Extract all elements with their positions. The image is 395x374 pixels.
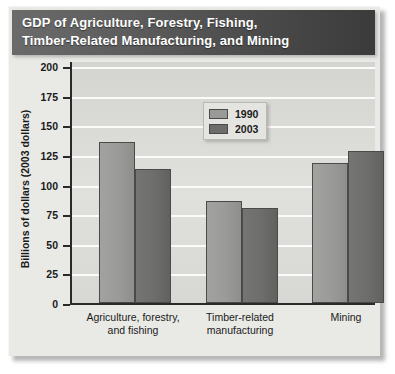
y-axis-tick-label: 150 bbox=[18, 120, 58, 132]
y-axis-tick-label: 175 bbox=[18, 91, 58, 103]
y-axis-tick bbox=[63, 274, 70, 276]
gridline bbox=[72, 67, 375, 69]
y-axis-tick-label: 100 bbox=[18, 180, 58, 192]
x-axis-label-line: manufacturing bbox=[175, 324, 305, 337]
y-axis-tick bbox=[63, 215, 70, 217]
x-axis-label: Mining bbox=[281, 311, 395, 324]
x-axis-label-line: Mining bbox=[281, 311, 395, 324]
y-axis-tick-label: 50 bbox=[18, 239, 58, 251]
title-line-1: GDP of Agriculture, Forestry, Fishing, bbox=[22, 14, 369, 32]
legend-item: 2003 bbox=[209, 122, 258, 135]
gridline bbox=[72, 97, 375, 99]
y-axis-tick-label: 75 bbox=[18, 209, 58, 221]
legend-label-1990: 1990 bbox=[235, 108, 258, 120]
page-title: GDP of Agriculture, Forestry, Fishing, T… bbox=[22, 14, 369, 50]
chart-title-banner: GDP of Agriculture, Forestry, Fishing, T… bbox=[12, 10, 375, 55]
y-axis-tick bbox=[63, 304, 70, 306]
y-axis-tick bbox=[63, 97, 70, 99]
bar-1990-1 bbox=[206, 201, 242, 303]
legend-item: 1990 bbox=[209, 107, 258, 120]
y-axis-tick-label: 25 bbox=[18, 268, 58, 280]
legend: 1990 2003 bbox=[203, 102, 267, 140]
bar-2003-0 bbox=[135, 169, 171, 303]
bar-1990-0 bbox=[99, 142, 135, 303]
bar-2003-2 bbox=[348, 151, 384, 303]
bar-2003-1 bbox=[242, 208, 278, 303]
bar-1990-2 bbox=[312, 163, 348, 303]
y-axis-tick-label: 125 bbox=[18, 150, 58, 162]
legend-label-2003: 2003 bbox=[235, 123, 258, 135]
plot-area bbox=[70, 62, 375, 305]
y-axis-tick bbox=[63, 245, 70, 247]
y-axis-tick-label: 0 bbox=[18, 298, 58, 310]
y-axis-tick bbox=[63, 156, 70, 158]
legend-swatch-2003 bbox=[209, 124, 228, 134]
y-axis-tick bbox=[63, 186, 70, 188]
y-axis-tick bbox=[63, 126, 70, 128]
legend-swatch-1990 bbox=[209, 109, 228, 119]
y-axis-tick-label: 200 bbox=[18, 61, 58, 73]
title-line-2: Timber-Related Manufacturing, and Mining bbox=[22, 32, 369, 50]
y-axis-tick bbox=[63, 67, 70, 69]
